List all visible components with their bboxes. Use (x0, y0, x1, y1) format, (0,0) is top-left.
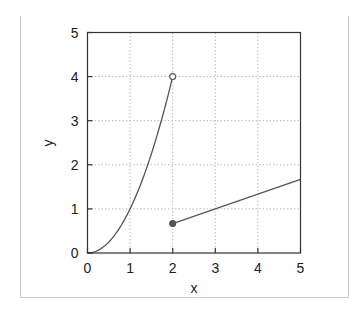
axis-ticks (88, 33, 301, 254)
filled-endpoint-marker (170, 221, 176, 227)
plot-area-border (88, 33, 301, 254)
x-tick-labels: 012345 (84, 260, 305, 276)
y-axis-label: y (40, 140, 56, 147)
y-tick-label: 4 (71, 69, 79, 85)
grid-lines (88, 33, 301, 254)
x-tick-label: 0 (84, 260, 92, 276)
y-tick-label: 5 (71, 25, 79, 41)
y-tick-label: 3 (71, 113, 79, 129)
piecewise-function-chart: 012345 012345 x y (0, 0, 364, 315)
y-tick-label: 1 (71, 201, 79, 217)
x-axis-label: x (191, 280, 198, 296)
series-line (173, 179, 301, 223)
x-tick-label: 3 (211, 260, 219, 276)
outer-frame (21, 16, 349, 298)
x-tick-label: 5 (297, 260, 305, 276)
data-series (88, 74, 301, 253)
y-tick-labels: 012345 (71, 25, 79, 262)
x-tick-label: 1 (126, 260, 134, 276)
y-tick-label: 0 (71, 245, 79, 261)
x-tick-label: 2 (169, 260, 177, 276)
open-endpoint-marker (170, 74, 176, 80)
y-tick-label: 2 (71, 157, 79, 173)
x-tick-label: 4 (254, 260, 262, 276)
